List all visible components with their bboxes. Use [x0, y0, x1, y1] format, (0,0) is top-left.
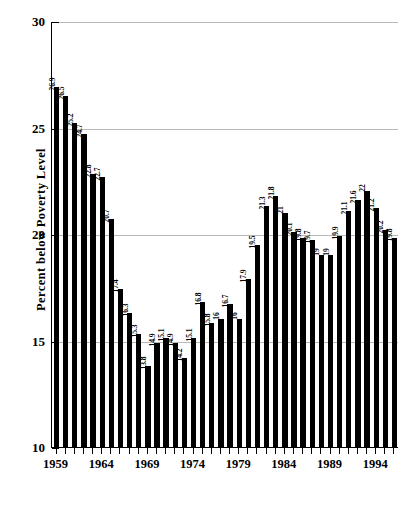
x-axis-tick	[129, 448, 130, 454]
bar-rect	[374, 208, 379, 447]
bar-rect	[392, 238, 397, 447]
bar: 16	[237, 21, 242, 447]
x-axis-tick-label: 1994	[363, 457, 388, 472]
bar-value-label: 21.2	[367, 199, 376, 212]
bar-rect	[237, 319, 242, 447]
y-axis-tick-label: 15	[5, 334, 45, 350]
x-axis-tick	[393, 448, 394, 454]
bar: 24.7	[81, 21, 86, 447]
bar-value-label: 19.8	[385, 229, 394, 242]
bar-rect	[54, 87, 59, 447]
y-axis-tick-label: 20	[5, 227, 45, 243]
bar-value-label: 22.8	[84, 165, 93, 178]
poverty-rate-bar-chart: Percent below Poverty Level 26.926.525.2…	[0, 0, 414, 505]
x-axis-tick	[65, 448, 66, 454]
y-axis-tick-label: 10	[5, 440, 45, 456]
bar-rect	[63, 96, 68, 447]
bar-value-label: 19	[322, 249, 331, 256]
x-axis-tick-label: 1969	[134, 457, 159, 472]
x-axis-tick	[284, 448, 285, 454]
x-axis-tick-label: 1959	[43, 457, 68, 472]
y-axis-tick-label: 25	[5, 121, 45, 137]
x-axis-tick	[165, 448, 166, 454]
bar-rect	[136, 334, 141, 447]
x-axis-tick	[375, 448, 376, 454]
bar: 15.1	[163, 21, 168, 447]
bar: 17.4	[118, 21, 123, 447]
x-axis-tick	[247, 448, 248, 454]
bar-rect	[264, 206, 269, 447]
x-axis-tick	[366, 448, 367, 454]
x-axis-tick	[147, 448, 148, 454]
bar-rect	[355, 200, 360, 447]
bar: 16.7	[227, 21, 232, 447]
bar: 19.7	[310, 21, 315, 447]
bar-rect	[191, 338, 196, 447]
x-axis-tick	[229, 448, 230, 454]
bar-value-label: 21.8	[267, 186, 276, 199]
bar-value-label: 20.1	[285, 222, 294, 235]
bar-value-label: 19.7	[303, 231, 312, 244]
bar: 26.5	[63, 21, 68, 447]
x-axis: 19591964196919741979198419891994	[51, 448, 398, 488]
bar-rect	[81, 134, 86, 447]
bar: 19	[319, 21, 324, 447]
bar-rect	[72, 123, 77, 447]
bar-value-label: 24.7	[75, 124, 84, 137]
bar: 21.8	[273, 21, 278, 447]
bar-value-label: 16.7	[221, 295, 230, 308]
bar-series: 26.926.525.224.722.822.720.717.416.315.3…	[52, 22, 398, 447]
x-axis-tick	[384, 448, 385, 454]
bar-rect	[273, 196, 278, 447]
x-axis-tick	[156, 448, 157, 454]
bar-rect	[182, 358, 187, 447]
bar-value-label: 19	[312, 249, 321, 256]
x-axis-tick-label: 1989	[317, 457, 342, 472]
bar: 15.3	[136, 21, 141, 447]
x-axis-tick	[119, 448, 120, 454]
bar-rect	[154, 343, 159, 447]
bar-value-label: 14.9	[148, 333, 157, 346]
x-axis-tick-label: 1974	[180, 457, 205, 472]
bar-value-label: 21.1	[340, 201, 349, 214]
bar-value-label: 17.4	[111, 280, 120, 293]
bar-rect	[163, 338, 168, 447]
bar-value-label: 22.7	[93, 167, 102, 180]
x-axis-tick	[220, 448, 221, 454]
x-axis-tick	[83, 448, 84, 454]
bar-value-label: 15.3	[130, 325, 139, 338]
x-axis-tick	[256, 448, 257, 454]
x-axis-tick	[311, 448, 312, 454]
bar-value-label: 17.9	[239, 269, 248, 282]
x-axis-tick	[183, 448, 184, 454]
bar: 16.3	[127, 21, 132, 447]
bar: 21.1	[346, 21, 351, 447]
bar-value-label: 14.9	[166, 333, 175, 346]
bar-value-label: 16	[230, 313, 239, 320]
bar: 19.8	[392, 21, 397, 447]
bar-rect	[218, 319, 223, 447]
bar: 14.9	[173, 21, 178, 447]
bar-rect	[300, 238, 305, 447]
bar-value-label: 15.1	[185, 329, 194, 342]
bar-rect	[90, 174, 95, 447]
bar-rect	[145, 366, 150, 447]
bar: 15.1	[191, 21, 196, 447]
bar-value-label: 13.8	[139, 357, 148, 370]
x-axis-tick-label: 1964	[89, 457, 114, 472]
bar-value-label: 25.2	[66, 114, 75, 127]
bar: 19.9	[337, 21, 342, 447]
bar-rect	[246, 279, 251, 447]
bar-value-label: 15.1	[157, 329, 166, 342]
bar-rect	[209, 323, 214, 447]
x-axis-tick	[357, 448, 358, 454]
bar: 13.8	[145, 21, 150, 447]
bar-rect	[383, 230, 388, 447]
x-axis-tick	[330, 448, 331, 454]
bar-rect	[291, 232, 296, 447]
x-axis-tick	[92, 448, 93, 454]
x-axis-tick	[339, 448, 340, 454]
x-axis-tick	[320, 448, 321, 454]
bar-rect	[227, 304, 232, 447]
bar-value-label: 26.9	[48, 78, 57, 91]
